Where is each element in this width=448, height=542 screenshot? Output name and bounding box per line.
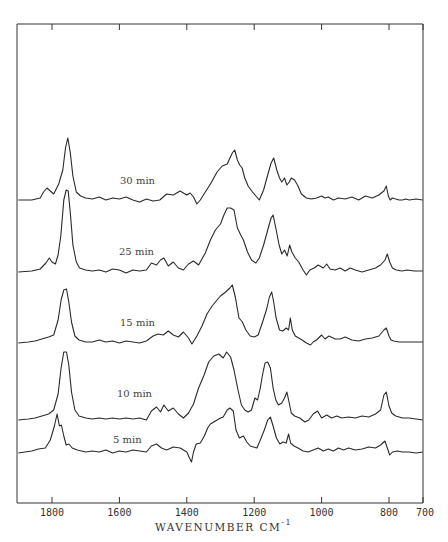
tick-label-1200: 1200 — [242, 507, 266, 518]
trace-labels: 30 min25 min15 min10 min5 min — [113, 175, 156, 445]
trace-30-min — [18, 138, 422, 204]
tick-label-700: 700 — [416, 507, 434, 518]
spectra-traces — [18, 138, 422, 462]
trace-label: 30 min — [120, 175, 156, 186]
trace-label: 5 min — [113, 434, 142, 445]
tick-label-1800: 1800 — [40, 507, 64, 518]
ir-spectrum-chart: 18001600140012001000800700 30 min25 min1… — [0, 0, 448, 542]
trace-label: 25 min — [119, 246, 155, 257]
plot-frame — [17, 24, 423, 503]
trace-label: 15 min — [120, 317, 156, 328]
trace-15-min — [18, 285, 422, 345]
tick-label-1400: 1400 — [175, 507, 199, 518]
tick-label-800: 800 — [380, 507, 398, 518]
x-axis-ticks: 18001600140012001000800700 — [40, 24, 434, 518]
trace-25-min — [18, 190, 422, 275]
trace-10-min — [18, 352, 422, 422]
x-axis-label: WAVENUMBER CM-1 — [155, 518, 292, 533]
trace-label: 10 min — [117, 388, 153, 399]
tick-label-1600: 1600 — [107, 507, 131, 518]
tick-label-1000: 1000 — [310, 507, 334, 518]
